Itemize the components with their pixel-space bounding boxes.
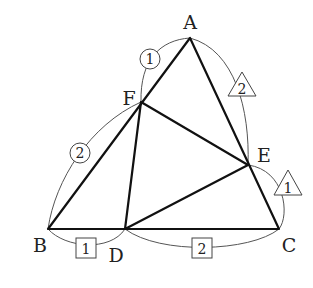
triangle-diagram: 1 2 2 1 1 2 A F E B D C — [0, 0, 313, 288]
label-E: E — [257, 144, 271, 166]
label-B: B — [33, 234, 47, 256]
marker-BD-square: 1 — [76, 238, 96, 258]
svg-text:1: 1 — [146, 51, 155, 67]
svg-text:2: 2 — [76, 145, 85, 161]
svg-text:1: 1 — [82, 241, 91, 257]
svg-text:1: 1 — [284, 180, 293, 196]
marker-FB-circle: 2 — [70, 143, 90, 163]
label-C: C — [282, 234, 297, 256]
marker-AF-circle: 1 — [140, 49, 160, 69]
triangle-ABC — [48, 38, 279, 229]
label-A: A — [182, 11, 197, 33]
svg-text:2: 2 — [198, 241, 207, 257]
label-D: D — [108, 244, 123, 266]
label-F: F — [122, 87, 135, 109]
svg-text:2: 2 — [238, 81, 247, 97]
marker-CE-triangle: 1 — [274, 170, 302, 196]
marker-DC-square: 2 — [192, 238, 212, 258]
